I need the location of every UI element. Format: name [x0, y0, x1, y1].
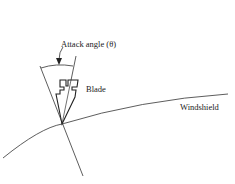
blade-shape [56, 80, 78, 124]
attack-angle-label: Attack angle (θ) [61, 39, 116, 49]
windshield-label: Windshield [180, 102, 219, 112]
arrow-head-icon [56, 58, 62, 65]
blade-label: Blade [86, 84, 106, 94]
wiper-diagram [0, 0, 235, 184]
angle-arc [41, 65, 73, 68]
